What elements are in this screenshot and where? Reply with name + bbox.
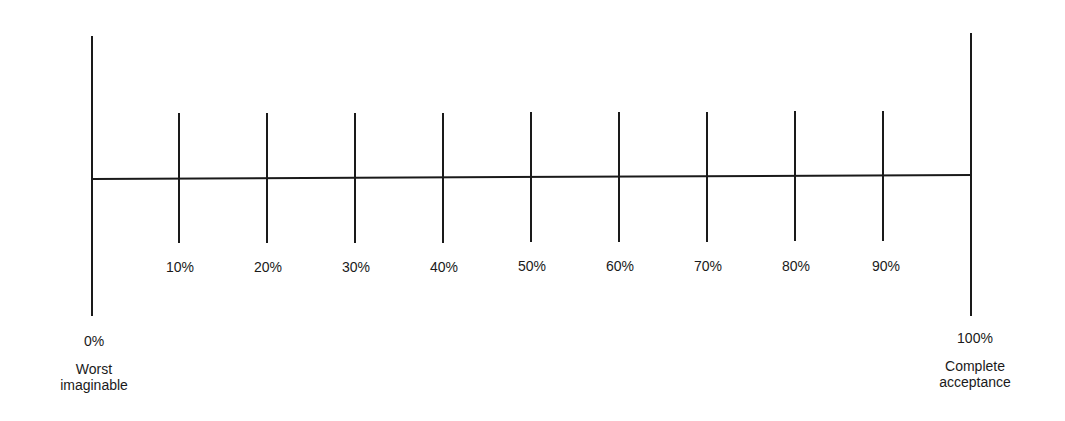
end-caption: Complete acceptance	[939, 358, 1011, 390]
tick-label-10: 10%	[166, 259, 194, 275]
start-value: 0%	[60, 333, 128, 349]
tick-label-80: 80%	[782, 258, 810, 274]
start-label: 0% Worst imaginable	[60, 333, 128, 393]
tick-label-60: 60%	[606, 258, 634, 274]
end-caption-line2: acceptance	[939, 374, 1011, 390]
visual-analog-scale	[0, 0, 1065, 421]
tick-label-50: 50%	[518, 258, 546, 274]
end-caption-line1: Complete	[939, 358, 1011, 374]
tick-label-30: 30%	[342, 259, 370, 275]
start-caption-line1: Worst	[60, 361, 128, 377]
tick-label-20: 20%	[254, 259, 282, 275]
tick-label-40: 40%	[430, 259, 458, 275]
end-value: 100%	[939, 330, 1011, 346]
tick-marks	[179, 111, 883, 243]
end-label: 100% Complete acceptance	[939, 330, 1011, 390]
start-caption: Worst imaginable	[60, 361, 128, 393]
start-caption-line2: imaginable	[60, 377, 128, 393]
tick-label-70: 70%	[694, 258, 722, 274]
tick-label-90: 90%	[872, 258, 900, 274]
